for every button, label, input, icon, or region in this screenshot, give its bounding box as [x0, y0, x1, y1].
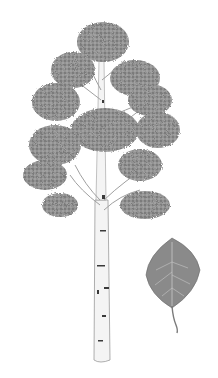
aspen-illustration — [0, 0, 218, 378]
foliage-cluster — [71, 108, 139, 152]
foliage-cluster — [51, 52, 95, 88]
foliage-cluster — [128, 84, 172, 116]
foliage-cluster — [32, 83, 80, 121]
aspen-leaf — [146, 238, 200, 333]
foliage-cluster — [29, 125, 81, 165]
foliage-cluster — [118, 149, 162, 181]
foliage-cluster — [136, 112, 180, 148]
foliage-cluster — [120, 191, 170, 219]
foliage-cluster — [42, 193, 78, 217]
foliage-cluster — [23, 160, 67, 190]
